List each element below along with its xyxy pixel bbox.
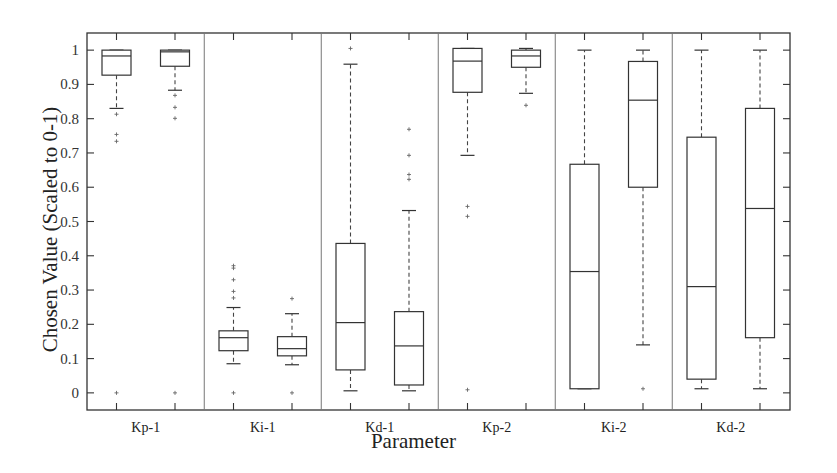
- iqr-box: [570, 164, 599, 388]
- iqr-box: [453, 48, 482, 92]
- category-label: Kp-1: [131, 420, 160, 435]
- outlier-point: [349, 46, 353, 50]
- outlier-point: [466, 204, 470, 208]
- y-tick-label: 0.2: [60, 316, 79, 332]
- y-tick-label: 0.4: [60, 248, 79, 264]
- box-kd-2-1: [687, 50, 716, 389]
- box-ki-1-2: [278, 297, 307, 395]
- category-label: Ki-1: [250, 420, 276, 435]
- iqr-box: [102, 50, 131, 75]
- outlier-point: [115, 132, 119, 136]
- y-tick-label: 0.7: [60, 145, 79, 161]
- category-separators: [204, 33, 672, 410]
- boxplot-chart: 00.10.20.30.40.50.60.70.80.91 Kp-1Ki-1Kd…: [0, 0, 837, 473]
- outlier-point: [407, 153, 411, 157]
- outlier-point: [173, 116, 177, 120]
- outlier-point: [115, 391, 119, 395]
- iqr-box: [687, 137, 716, 379]
- y-tick-label: 0.6: [60, 179, 79, 195]
- outlier-point: [232, 296, 236, 300]
- y-tick-label: 0.5: [60, 214, 79, 230]
- outlier-point: [173, 391, 177, 395]
- box-ki-2-1: [570, 50, 599, 389]
- outlier-point: [232, 391, 236, 395]
- box-kp-2-2: [512, 48, 541, 107]
- outlier-point: [232, 278, 236, 282]
- outlier-point: [466, 388, 470, 392]
- iqr-box: [161, 50, 190, 66]
- iqr-box: [278, 337, 307, 356]
- outlier-point: [290, 391, 294, 395]
- x-axis-title: Parameter: [371, 429, 456, 453]
- iqr-box: [219, 331, 248, 351]
- y-tick-label: 0.1: [60, 351, 79, 367]
- box-ki-2-2: [629, 50, 658, 391]
- iqr-box: [395, 312, 424, 385]
- y-tick-label: 0.3: [60, 282, 79, 298]
- y-tick-label: 0: [72, 385, 80, 401]
- box-kp-1-2: [161, 50, 190, 395]
- outlier-point: [407, 127, 411, 131]
- outlier-point: [641, 387, 645, 391]
- iqr-box: [746, 108, 775, 337]
- outlier-point: [115, 139, 119, 143]
- outlier-point: [407, 173, 411, 177]
- y-axis: 00.10.20.30.40.50.60.70.80.91: [60, 42, 790, 401]
- outlier-point: [232, 266, 236, 270]
- outlier-point: [173, 105, 177, 109]
- outlier-point: [173, 93, 177, 97]
- box-kp-2-1: [453, 48, 482, 391]
- box-kd-1-2: [395, 127, 424, 391]
- category-label: Ki-2: [601, 420, 627, 435]
- outlier-point: [290, 297, 294, 301]
- box-kd-2-2: [746, 50, 775, 389]
- outlier-point: [115, 112, 119, 116]
- box-kd-1-1: [336, 46, 365, 390]
- y-tick-label: 0.9: [60, 76, 79, 92]
- outlier-point: [524, 103, 528, 107]
- box-ki-1-1: [219, 264, 248, 395]
- iqr-box: [512, 50, 541, 67]
- y-tick-label: 1: [72, 42, 80, 58]
- box-kp-1-1: [102, 50, 131, 395]
- outlier-point: [407, 177, 411, 181]
- outlier-point: [232, 289, 236, 293]
- iqr-box: [629, 61, 658, 187]
- iqr-box: [336, 243, 365, 369]
- y-tick-label: 0.8: [60, 111, 79, 127]
- y-axis-title: Chosen Value (Scaled to 0-1): [38, 107, 62, 353]
- category-label: Kp-2: [482, 420, 511, 435]
- outlier-point: [466, 214, 470, 218]
- category-label: Kd-2: [716, 420, 745, 435]
